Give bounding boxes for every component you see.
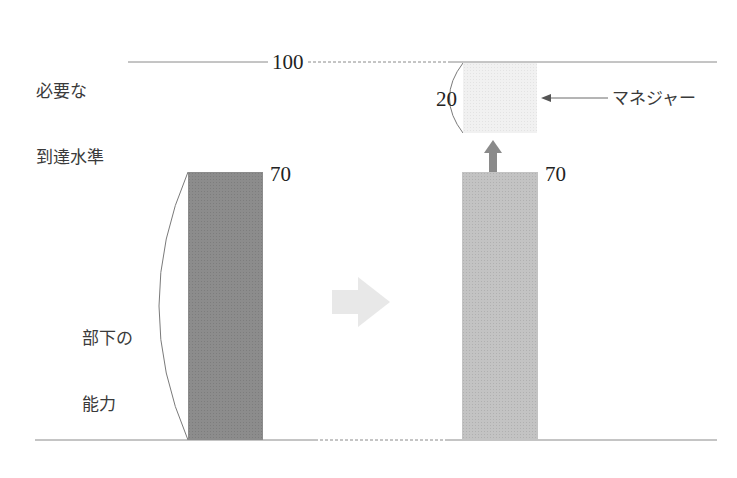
manager-label: マネジャー bbox=[612, 87, 696, 109]
subordinate-label-line1: 部下の bbox=[82, 327, 133, 349]
manager-pointer-arrowhead bbox=[541, 94, 551, 102]
right-bar-value: 70 bbox=[545, 163, 566, 185]
combined-bar bbox=[462, 172, 538, 440]
target-label-line2: 到達水準 bbox=[36, 146, 104, 168]
up-arrow-head bbox=[484, 140, 502, 153]
manager-contribution-value: 20 bbox=[436, 88, 457, 110]
target-value: 100 bbox=[270, 51, 306, 73]
subordinate-bracket bbox=[159, 172, 188, 440]
subordinate-bar bbox=[188, 172, 263, 440]
subordinate-label-line2: 能力 bbox=[82, 393, 133, 415]
subordinate-ability-label: 部下の 能力 bbox=[82, 283, 133, 437]
target-level-label: 必要な 到達水準 bbox=[36, 36, 104, 190]
left-bar-value: 70 bbox=[270, 163, 291, 185]
up-arrow-shaft bbox=[489, 152, 497, 172]
target-label-line1: 必要な bbox=[36, 80, 104, 102]
transition-arrow-icon bbox=[332, 277, 390, 327]
manager-contribution-box bbox=[463, 63, 537, 133]
